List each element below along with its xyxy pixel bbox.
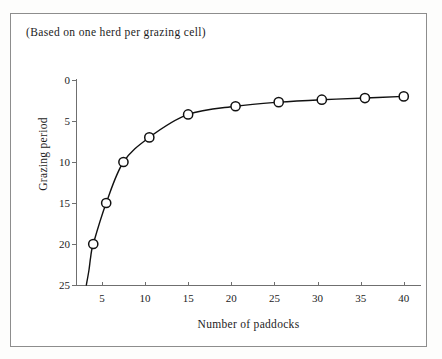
- data-point-marker: [399, 92, 408, 101]
- data-point-marker: [184, 110, 193, 119]
- data-point-markers: [89, 92, 409, 249]
- data-point-marker: [317, 95, 326, 104]
- data-point-marker: [360, 93, 369, 102]
- figure-root: (Based on one herd per grazing cell) 051…: [0, 0, 442, 359]
- data-curve: [86, 96, 403, 285]
- data-point-marker: [119, 157, 128, 166]
- data-point-marker: [231, 102, 240, 111]
- data-point-marker: [102, 198, 111, 207]
- data-point-marker: [274, 98, 283, 107]
- y-axis-title: Grazing period: [37, 94, 49, 214]
- data-point-marker: [145, 133, 154, 142]
- data-point-marker: [89, 239, 98, 248]
- x-axis-title: Number of paddocks: [76, 318, 421, 330]
- chart-plot: [0, 0, 442, 359]
